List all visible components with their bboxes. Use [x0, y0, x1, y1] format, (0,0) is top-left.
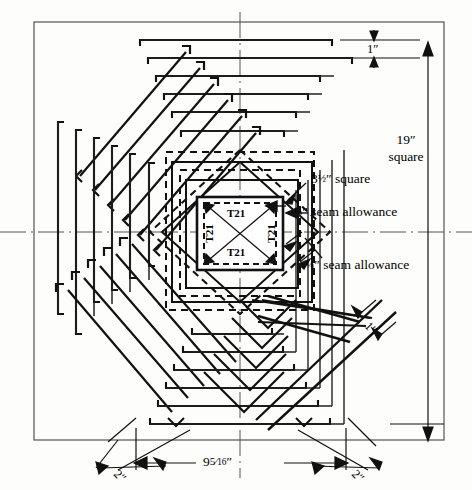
label-block-size-word: square	[378, 150, 434, 164]
label-seam-allowance-lower: ¼″ seam allowance	[306, 258, 409, 272]
label-block-size-value: 19″	[386, 133, 426, 147]
center-patch-label-left: T21	[204, 224, 215, 242]
center-patch-label-right: T21	[266, 224, 277, 242]
center-patch-label-top: T21	[227, 208, 245, 219]
quilt-pattern-diagram: 3½″ square ¼″ seam allowance ¼″ seam all…	[0, 0, 472, 490]
center-patch-label-bottom: T21	[227, 247, 245, 258]
bottom-right-diagonals	[204, 296, 396, 430]
label-bottom-center-dimension: 95⁄16″	[203, 455, 232, 469]
pattern-drawing	[0, 0, 472, 490]
label-seam-allowance-upper: ¼″ seam allowance	[294, 205, 397, 219]
dim-block-size	[390, 42, 444, 441]
label-strip-width-top: 1″	[367, 43, 378, 56]
top-strips	[140, 40, 352, 137]
label-center-square-size: 3½″ square	[311, 172, 370, 186]
left-strips	[58, 122, 155, 334]
